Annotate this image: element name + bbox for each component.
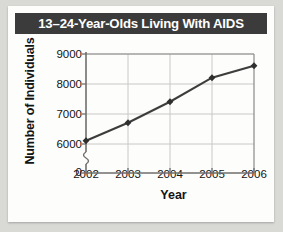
plot-area <box>8 36 274 222</box>
data-point-2002 <box>83 137 90 144</box>
chart-region: Number of Individuals 9000 8000 7000 600… <box>8 36 274 222</box>
figure-card: 13–24-Year-Olds Living With AIDS Number … <box>8 6 274 222</box>
chart-title-banner: 13–24-Year-Olds Living With AIDS <box>15 13 267 34</box>
data-point-2003 <box>125 119 132 126</box>
page-title: 13–24-Year-Olds Living With AIDS <box>38 16 244 31</box>
y-axis-break-symbol <box>84 152 89 164</box>
data-point-2006 <box>251 62 258 69</box>
